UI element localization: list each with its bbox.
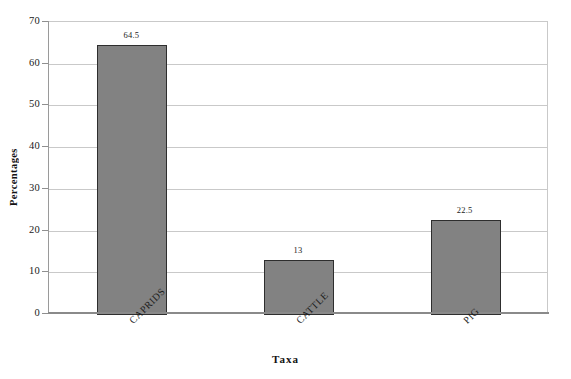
bar (264, 260, 334, 315)
y-axis-tick-label-wrap: 40 (0, 141, 40, 151)
y-axis-tick-label: 70 (6, 16, 40, 26)
bar-value-label: 22.5 (435, 206, 495, 215)
y-axis-tick-label: 50 (6, 99, 40, 109)
bar-value-label: 64.5 (101, 31, 161, 40)
bar-value-label: 13 (268, 246, 328, 255)
y-axis-tick-label: 20 (6, 225, 40, 235)
x-axis-title: Taxa (0, 353, 571, 365)
y-axis-tick-label-wrap: 20 (0, 225, 40, 235)
y-axis-tick-label-wrap: 10 (0, 266, 40, 276)
plot-area (48, 21, 548, 313)
y-axis-tick-label-wrap: 30 (0, 183, 40, 193)
y-axis-tick-label: 0 (6, 308, 40, 318)
y-axis-tick-label: 40 (6, 141, 40, 151)
y-axis-tick-label: 30 (6, 183, 40, 193)
y-axis-tick-label-wrap: 0 (0, 308, 40, 318)
bar (97, 45, 167, 315)
y-axis-tick-label-wrap: 60 (0, 58, 40, 68)
y-axis-line (48, 21, 49, 314)
y-axis-tick-label: 60 (6, 58, 40, 68)
y-axis-tick-label: 10 (6, 266, 40, 276)
bar (431, 220, 501, 315)
y-axis-tick-label-wrap: 70 (0, 16, 40, 26)
y-axis-tick-label-wrap: 50 (0, 99, 40, 109)
bar-chart: Percentages 010203040506070 64.51322.5 C… (0, 0, 571, 379)
